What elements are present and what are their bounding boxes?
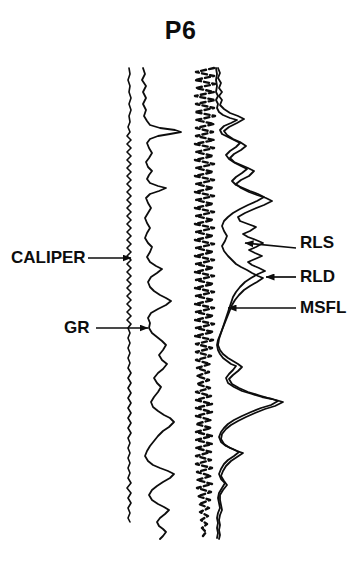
well-log-figure: P6 CALIPER GR RLS RLD MSFL [0,0,361,562]
curve-caliper [127,68,131,522]
curve-label-rls: RLS [300,234,334,251]
curve-rls [218,68,283,539]
curve-label-msfl: MSFL [300,299,346,316]
curve-msfl [195,68,215,536]
curve-label-gr: GR [64,319,90,336]
annotation-leader-layer [88,243,296,328]
curve-label-rld: RLD [300,268,335,285]
curve-layer [127,68,283,539]
leader-line-rls [245,243,296,248]
curve-gr [142,68,181,539]
curve-label-caliper: CALIPER [11,249,86,266]
